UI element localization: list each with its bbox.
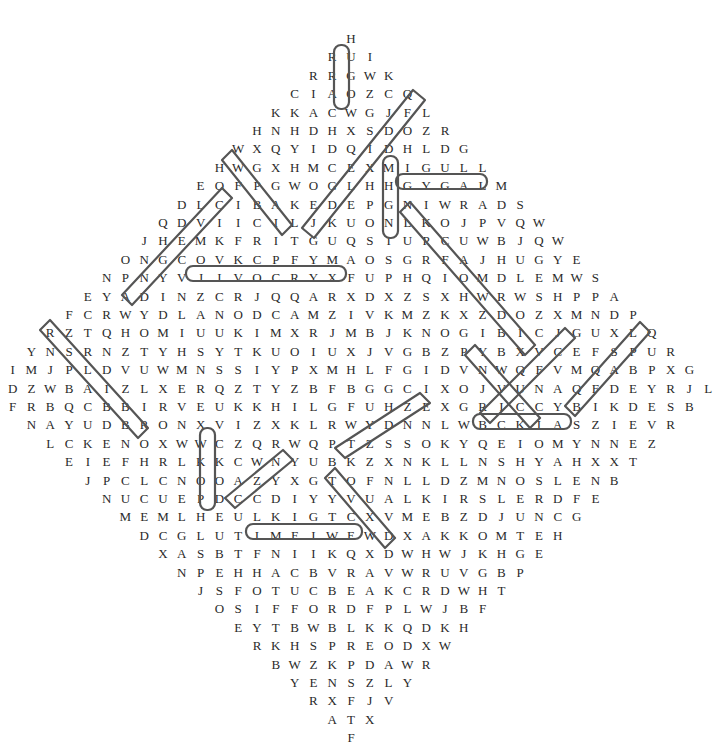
grid-letter[interactable]: A [605,288,623,306]
grid-letter[interactable]: K [286,104,304,122]
grid-letter[interactable]: I [286,545,304,563]
grid-letter[interactable]: W [286,656,304,674]
grid-letter[interactable]: S [192,343,210,361]
grid-letter[interactable]: G [680,361,698,379]
grid-letter[interactable]: P [323,637,341,655]
grid-letter[interactable]: C [135,490,153,508]
grid-letter[interactable]: E [586,490,604,508]
grid-letter[interactable]: V [192,214,210,232]
grid-letter[interactable]: X [455,306,473,324]
grid-letter[interactable]: C [436,232,454,250]
grid-letter[interactable]: K [210,453,228,471]
grid-letter[interactable]: L [436,416,454,434]
grid-letter[interactable]: N [398,453,416,471]
grid-letter[interactable]: I [417,196,435,214]
grid-letter[interactable]: U [511,380,529,398]
grid-letter[interactable]: L [286,214,304,232]
grid-letter[interactable]: F [267,600,285,618]
grid-letter[interactable]: N [173,416,191,434]
grid-letter[interactable]: K [380,619,398,637]
grid-letter[interactable]: R [304,67,322,85]
grid-letter[interactable]: B [323,582,341,600]
grid-letter[interactable]: F [229,177,247,195]
grid-letter[interactable]: D [210,490,228,508]
grid-letter[interactable]: S [568,416,586,434]
grid-letter[interactable]: U [361,490,379,508]
grid-letter[interactable]: N [605,435,623,453]
grid-letter[interactable]: Y [361,416,379,434]
grid-letter[interactable]: R [229,288,247,306]
grid-letter[interactable]: A [79,380,97,398]
grid-letter[interactable]: X [549,306,567,324]
grid-letter[interactable]: X [605,324,623,342]
grid-letter[interactable]: X [436,288,454,306]
grid-letter[interactable]: D [398,637,416,655]
grid-letter[interactable]: A [380,656,398,674]
grid-letter[interactable]: F [342,729,360,746]
grid-letter[interactable]: O [342,472,360,490]
grid-letter[interactable]: V [455,361,473,379]
grid-letter[interactable]: X [154,545,172,563]
grid-letter[interactable]: D [549,490,567,508]
grid-letter[interactable]: F [229,582,247,600]
grid-letter[interactable]: C [154,527,172,545]
grid-letter[interactable]: A [173,545,191,563]
grid-letter[interactable]: D [436,472,454,490]
grid-letter[interactable]: Q [267,288,285,306]
grid-letter[interactable]: Q [474,435,492,453]
grid-letter[interactable]: Y [60,416,78,434]
grid-letter[interactable]: I [417,361,435,379]
grid-letter[interactable]: L [398,600,416,618]
grid-letter[interactable]: H [135,453,153,471]
grid-letter[interactable]: F [116,453,134,471]
grid-letter[interactable]: F [286,600,304,618]
grid-letter[interactable]: K [436,527,454,545]
grid-letter[interactable]: Z [248,472,266,490]
grid-letter[interactable]: L [304,416,322,434]
grid-letter[interactable]: G [511,545,529,563]
grid-letter[interactable]: L [474,159,492,177]
grid-letter[interactable]: L [248,508,266,526]
grid-letter[interactable]: E [568,251,586,269]
grid-letter[interactable]: O [417,435,435,453]
grid-letter[interactable]: A [361,582,379,600]
grid-letter[interactable]: R [417,582,435,600]
grid-letter[interactable]: O [116,251,134,269]
grid-letter[interactable]: M [568,306,586,324]
grid-letter[interactable]: M [192,232,210,250]
grid-letter[interactable]: U [135,361,153,379]
grid-letter[interactable]: B [323,619,341,637]
grid-letter[interactable]: Q [267,140,285,158]
grid-letter[interactable]: Y [286,453,304,471]
grid-letter[interactable]: N [98,343,116,361]
grid-letter[interactable]: F [586,380,604,398]
grid-letter[interactable]: Z [398,288,416,306]
grid-letter[interactable]: Z [116,380,134,398]
grid-letter[interactable]: B [304,564,322,582]
grid-letter[interactable]: W [474,288,492,306]
grid-letter[interactable]: R [455,490,473,508]
grid-letter[interactable]: L [398,214,416,232]
grid-letter[interactable]: S [229,361,247,379]
grid-letter[interactable]: Q [511,361,529,379]
grid-letter[interactable]: A [267,564,285,582]
grid-letter[interactable]: C [398,380,416,398]
grid-letter[interactable]: H [154,232,172,250]
grid-letter[interactable]: C [492,416,510,434]
grid-letter[interactable]: R [98,306,116,324]
grid-letter[interactable]: Y [530,453,548,471]
grid-letter[interactable]: L [474,177,492,195]
grid-letter[interactable]: X [361,159,379,177]
grid-letter[interactable]: E [417,508,435,526]
grid-letter[interactable]: D [342,600,360,618]
grid-letter[interactable]: B [474,416,492,434]
grid-letter[interactable]: H [248,122,266,140]
grid-letter[interactable]: Y [286,674,304,692]
grid-letter[interactable]: Q [304,435,322,453]
grid-letter[interactable]: O [530,435,548,453]
grid-letter[interactable]: U [267,343,285,361]
grid-letter[interactable]: C [286,564,304,582]
grid-letter[interactable]: N [398,416,416,434]
grid-letter[interactable]: R [135,416,153,434]
grid-letter[interactable]: D [173,214,191,232]
